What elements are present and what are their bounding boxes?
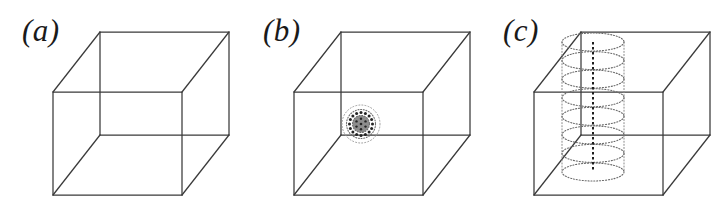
sphere-inclusion xyxy=(342,105,380,143)
cube-connect-edge-tr xyxy=(182,32,229,92)
cube-connect-edge-br xyxy=(663,135,710,195)
cube-back-face-edges xyxy=(581,32,710,135)
cylinder-ellipse-8 xyxy=(562,163,624,181)
panel-c: (c) xyxy=(481,0,722,206)
cube-connect-edge-tr xyxy=(423,32,470,92)
panel-b: (b) xyxy=(241,0,482,206)
cube-connect-edge-bl xyxy=(53,135,100,195)
cylinder-inclusion xyxy=(562,33,624,181)
cube-connect-edge-tl xyxy=(53,32,100,92)
cube-connect-edge-tr xyxy=(663,32,710,92)
cube-panels-figure: (a) xyxy=(0,0,722,206)
cube-connect-edge-br xyxy=(423,135,470,195)
panel-a: (a) xyxy=(0,0,241,206)
cube-connect-edge-bl xyxy=(294,135,341,195)
cube-connect-edge-tl xyxy=(294,32,341,92)
panel-c-label: (c) xyxy=(503,14,539,48)
cube-connect-edge-tl xyxy=(534,32,581,92)
cube-back-face-edges xyxy=(100,32,229,135)
cube-wireframe-a xyxy=(53,32,229,195)
cube-front-face-edges xyxy=(294,92,423,195)
panel-a-label: (a) xyxy=(22,14,60,48)
cube-connect-edge-br xyxy=(182,135,229,195)
cube-front-face-edges xyxy=(53,92,182,195)
cube-wireframe-b xyxy=(294,32,470,195)
panel-b-label: (b) xyxy=(263,14,301,48)
